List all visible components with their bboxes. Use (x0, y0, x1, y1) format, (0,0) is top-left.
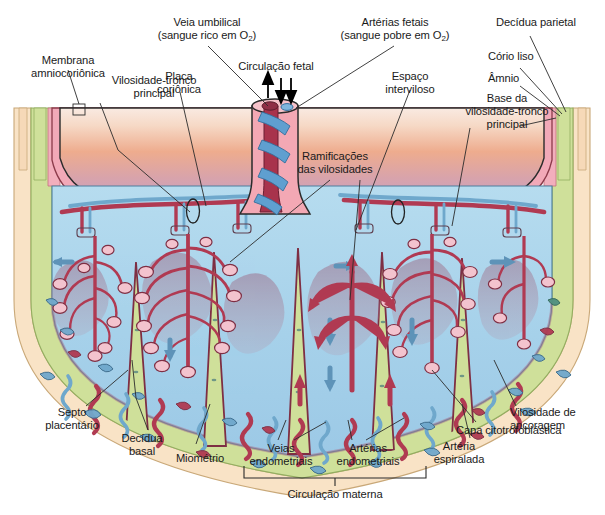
label-corio-liso: Cório liso (488, 50, 578, 63)
label-veia-umbilical-line2-pre: (sangue rico em O (158, 29, 248, 41)
label-arterias-fetais-line2-pre: (sangue pobre em O (341, 29, 442, 41)
label-vilosidade-ancoragem: Vilosidade deancoragem (510, 406, 605, 432)
label-amnio: Âmnio (488, 72, 578, 85)
cord-flow-arrows (263, 72, 296, 103)
label-espaco-interviloso: Espaçointerviloso (362, 70, 458, 96)
label-arterias-endometriais: Artériasendometriais (322, 442, 414, 468)
label-veia-umbilical-line2-post: ) (253, 29, 257, 41)
label-base-vilosidade-tronco: Base davilosidade-troncoprincipal (446, 92, 568, 132)
label-circulacao-fetal: Circulação fetal (214, 60, 338, 73)
label-circulacao-materna: Circulação materna (255, 488, 415, 501)
chorion-band-left (34, 108, 46, 180)
placenta-diagram-figure: Membranaamniocoriônica Vilosidade-tronco… (0, 0, 605, 515)
label-arteria-espiralada: Artériaespiralada (420, 440, 498, 466)
vein-lumen-top (262, 102, 278, 110)
label-placa-corionica: Placacoriônica (136, 70, 222, 96)
label-ramificacoes-vilosidades: Ramificaçõesdas vilosidades (282, 150, 388, 176)
amnion-band-right (578, 108, 586, 170)
label-septo-placentario: Septoplacentário (30, 406, 114, 432)
label-decidua-parietal: Decídua parietal (496, 16, 604, 29)
label-arterias-fetais-line2-post: ) (446, 29, 450, 41)
label-veia-umbilical-line1: Veia umbilical (173, 16, 240, 28)
label-arterias-fetais: Artérias fetais(sangue pobre em O2) (290, 16, 500, 45)
label-veias-endometriais: Veiasendometriais (238, 442, 324, 468)
amnion-band-left (19, 108, 27, 170)
label-miometrio: Miométrio (162, 452, 238, 465)
label-veia-umbilical: Veia umbilical(sangue rico em O2) (92, 16, 322, 45)
label-arterias-fetais-line1: Artérias fetais (362, 16, 429, 28)
